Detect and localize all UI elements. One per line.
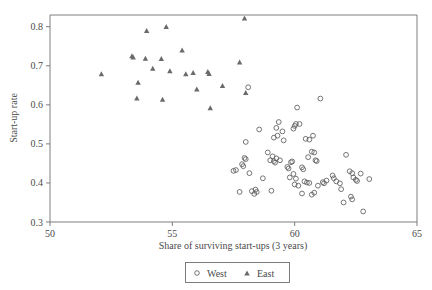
x-axis-title: Share of surviving start-ups (3 years) [159, 240, 308, 252]
y-tick-label: 0.7 [31, 60, 44, 71]
y-tick-label: 0.5 [31, 138, 44, 149]
y-tick-label: 0.3 [31, 217, 44, 228]
legend-label-west: West [207, 268, 227, 279]
y-tick-label: 0.8 [31, 21, 44, 32]
legend-label-east: East [257, 268, 274, 279]
y-axis-title: Start-up rate [8, 93, 19, 143]
y-tick-label: 0.4 [31, 177, 44, 188]
x-tick-label: 65 [412, 228, 422, 239]
y-tick-label: 0.6 [31, 99, 44, 110]
chart-canvas: 0.30.40.50.60.70.8 50556065 Share of sur… [0, 0, 432, 290]
legend: West East [186, 263, 290, 283]
x-tick-label: 55 [167, 228, 177, 239]
scatter-plot-figure: 0.30.40.50.60.70.8 50556065 Share of sur… [0, 0, 432, 290]
x-tick-label: 50 [45, 228, 55, 239]
x-tick-label: 60 [290, 228, 300, 239]
